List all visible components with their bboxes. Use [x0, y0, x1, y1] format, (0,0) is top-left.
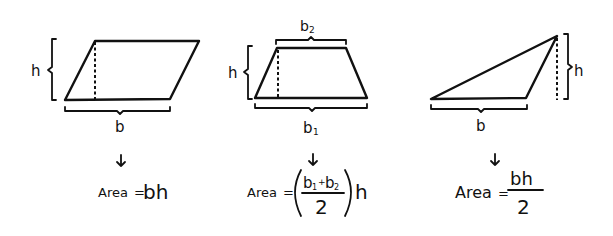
trapezoid-formula: Area = b 1 + b 2 2 h — [247, 170, 368, 219]
trapezoid-bottom-base-label: b — [303, 119, 313, 137]
triangle-height-label: h — [574, 62, 584, 80]
formula-close-paren — [345, 170, 351, 216]
triangle-panel: h b Area = bh 2 — [431, 34, 584, 219]
trapezoid-top-base-subscript: 2 — [309, 25, 315, 35]
trapezoid-top-base-brace — [276, 37, 346, 44]
parallelogram-base-label: b — [115, 118, 125, 136]
formula-open-paren — [295, 170, 301, 216]
area-formulas-diagram: h b Area = bh b 2 h b 1 Area = b 1 + b 2 — [0, 0, 613, 236]
triangle-base-brace — [431, 105, 527, 112]
triangle-base-label: b — [476, 117, 486, 135]
down-arrow-icon — [117, 155, 125, 166]
parallelogram-shape — [65, 41, 199, 100]
trapezoid-shape — [255, 48, 367, 98]
formula-area-label: Area — [98, 185, 128, 200]
parallelogram-base-brace — [65, 107, 170, 114]
formula-denominator: 2 — [315, 195, 328, 219]
parallelogram-formula: Area = bh — [98, 180, 168, 204]
trapezoid-height-brace — [244, 46, 252, 99]
formula-numerator-b2-subscript: 2 — [334, 183, 339, 192]
formula-area-label: Area — [247, 185, 277, 200]
formula-expression: bh — [143, 180, 168, 204]
parallelogram-panel: h b Area = bh — [31, 39, 199, 204]
formula-numerator-b1-subscript: 1 — [312, 183, 317, 192]
formula-denominator: 2 — [517, 195, 530, 219]
formula-equals: = — [498, 186, 509, 201]
formula-area-label: Area — [455, 183, 492, 202]
trapezoid-bottom-base-subscript: 1 — [313, 127, 319, 137]
triangle-height-brace — [564, 34, 572, 99]
formula-equals: = — [283, 185, 294, 200]
trapezoid-top-base-label: b — [300, 18, 309, 34]
formula-numerator: bh — [510, 168, 533, 189]
trapezoid-bottom-base-brace — [255, 104, 367, 111]
triangle-formula: Area = bh 2 — [455, 168, 543, 219]
trapezoid-height-label: h — [228, 64, 238, 82]
trapezoid-panel: b 2 h b 1 Area = b 1 + b 2 2 h — [228, 18, 368, 219]
parallelogram-height-label: h — [31, 62, 41, 80]
down-arrow-icon — [491, 154, 499, 165]
formula-multiplier: h — [355, 180, 368, 204]
down-arrow-icon — [309, 154, 317, 165]
parallelogram-height-brace — [48, 39, 56, 100]
triangle-shape — [431, 36, 557, 99]
